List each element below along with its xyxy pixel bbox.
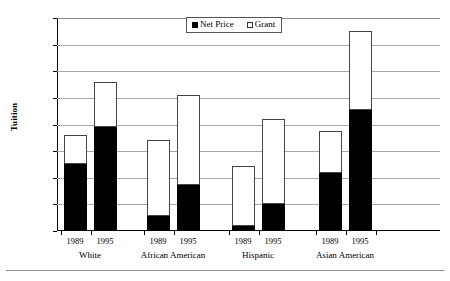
legend-entry-grant: Grant	[247, 19, 276, 30]
x-axis-group-label: Asian American	[275, 250, 415, 260]
x-axis-tick-mark	[259, 231, 260, 235]
bar-segment-grant	[349, 31, 372, 109]
bar-segment-net-price	[349, 110, 372, 231]
x-axis-tick-mark	[316, 231, 317, 235]
legend-swatch-grant-icon	[247, 22, 253, 28]
bar	[64, 135, 87, 231]
legend-label-net-price: Net Price	[200, 19, 234, 30]
y-axis-tick-mark	[53, 204, 57, 205]
legend-swatch-net-price-icon	[192, 22, 198, 28]
bar-segment-net-price	[147, 216, 170, 231]
bar-segment-grant	[64, 135, 87, 164]
bar-segment-grant	[319, 131, 342, 173]
bar-segment-grant	[262, 119, 285, 204]
y-axis-tick-mark	[53, 18, 57, 19]
bar	[232, 166, 255, 231]
x-axis-year-label: 1995	[243, 236, 303, 246]
bar	[262, 119, 285, 231]
bar	[349, 31, 372, 231]
y-axis-tick-mark	[53, 151, 57, 152]
x-axis-tick-mark	[144, 231, 145, 235]
y-axis-tick-mark	[53, 71, 57, 72]
x-axis-tick-mark	[346, 231, 347, 235]
legend-entry-net-price: Net Price	[192, 19, 234, 30]
x-axis-tick-mark	[174, 231, 175, 235]
bar-segment-grant	[232, 166, 255, 226]
bar-segment-net-price	[232, 226, 255, 231]
bar	[319, 131, 342, 231]
chart-legend: Net Price Grant	[186, 17, 282, 33]
y-axis-tick-mark	[53, 178, 57, 179]
y-axis-tick-mark	[53, 231, 57, 232]
y-axis-tick-mark	[53, 45, 57, 46]
plot-area: $0$500$1,000$1,500$2,000$2,500$3,000$3,5…	[57, 18, 440, 231]
x-axis-tick-mark	[91, 231, 92, 235]
bar	[94, 82, 117, 231]
bar-segment-net-price	[64, 164, 87, 231]
bar-segment-net-price	[177, 185, 200, 231]
bar-segment-grant	[94, 82, 117, 127]
bar-segment-net-price	[262, 204, 285, 231]
x-axis-year-label: 1995	[75, 236, 135, 246]
bar-segment-net-price	[319, 173, 342, 231]
tuition-stacked-bar-chart: Tuition $0$500$1,000$1,500$2,000$2,500$3…	[0, 0, 450, 281]
gridline	[57, 45, 440, 46]
x-axis-tick-mark	[61, 231, 62, 235]
bar-segment-grant	[177, 95, 200, 185]
bar-segment-grant	[147, 140, 170, 216]
footer-divider	[6, 270, 444, 271]
y-axis-tick-mark	[53, 125, 57, 126]
x-axis-year-label: 1995	[158, 236, 218, 246]
y-axis-title: Tuition	[9, 82, 19, 152]
bar	[177, 95, 200, 231]
bar	[147, 140, 170, 231]
bar-segment-net-price	[94, 127, 117, 231]
y-axis-tick-mark	[53, 98, 57, 99]
x-axis-year-label: 1995	[330, 236, 390, 246]
legend-label-grant: Grant	[255, 19, 276, 30]
gridline	[57, 71, 440, 72]
x-axis-tick-mark	[229, 231, 230, 235]
x-axis-tick-mark	[376, 231, 377, 235]
